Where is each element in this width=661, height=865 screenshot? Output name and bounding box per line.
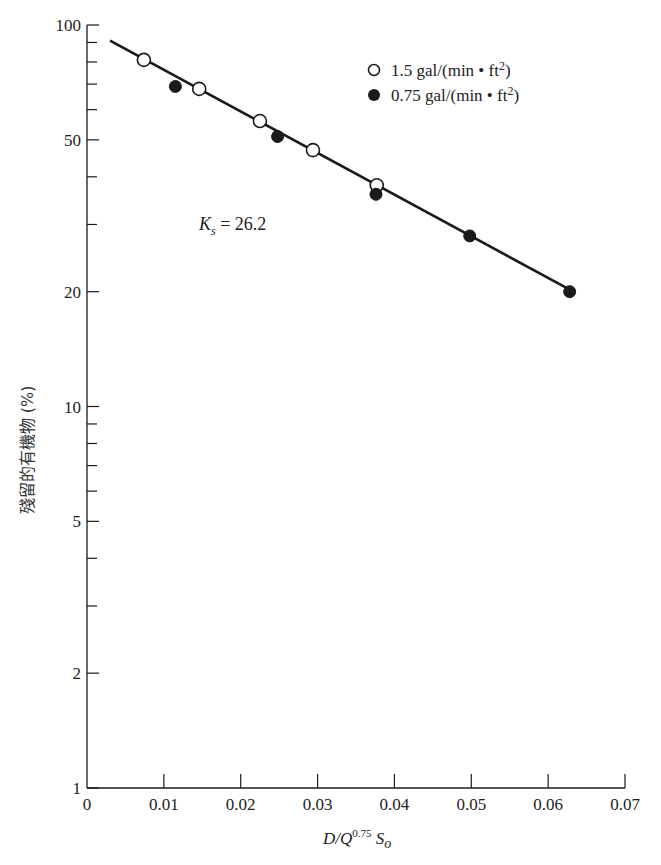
legend-open-label: 1.5 gal/(min • ft2): [391, 59, 511, 80]
x-tick-label: 0.01: [149, 795, 179, 814]
legend: 1.5 gal/(min • ft2) 0.75 gal/(min • ft2): [368, 59, 519, 105]
y-axis-label: 殘留的有機物 (%): [14, 386, 38, 515]
data-point-open: [137, 53, 150, 66]
legend-filled-label: 0.75 gal/(min • ft2): [391, 84, 519, 105]
data-point-filled: [169, 80, 181, 92]
y-tick-label: 10: [64, 398, 81, 417]
x-tick-label: 0.04: [380, 795, 410, 814]
y-tick-label: 20: [64, 283, 81, 302]
legend-filled-circle-icon: [368, 89, 380, 101]
data-point-filled: [464, 230, 476, 242]
legend-open-circle-icon: [369, 65, 380, 76]
x-tick-label: 0.06: [533, 795, 563, 814]
x-tick-label: 0.03: [303, 795, 333, 814]
x-tick-label: 0.07: [610, 795, 640, 814]
y-tick-label: 1: [73, 779, 82, 798]
y-tick-label: 2: [73, 664, 82, 683]
axes: 12510205010000.010.020.030.040.050.060.0…: [56, 16, 641, 814]
data-point-open: [193, 82, 206, 95]
x-tick-label: 0.05: [456, 795, 486, 814]
data-point-filled: [370, 188, 382, 200]
chart-canvas: 12510205010000.010.020.030.040.050.060.0…: [0, 0, 661, 865]
y-tick-label: 50: [64, 131, 81, 150]
data-point-open: [253, 115, 266, 128]
x-tick-label: 0: [83, 795, 92, 814]
y-tick-label: 100: [56, 16, 82, 35]
data-point-filled: [272, 131, 284, 143]
x-tick-label: 0.02: [226, 795, 256, 814]
data-point-open: [306, 144, 319, 157]
y-tick-label: 5: [73, 512, 82, 531]
x-axis-label: D/Q0.75 So: [323, 827, 391, 852]
data-point-filled: [564, 286, 576, 298]
ks-annotation: Ks = 26.2: [199, 214, 266, 239]
